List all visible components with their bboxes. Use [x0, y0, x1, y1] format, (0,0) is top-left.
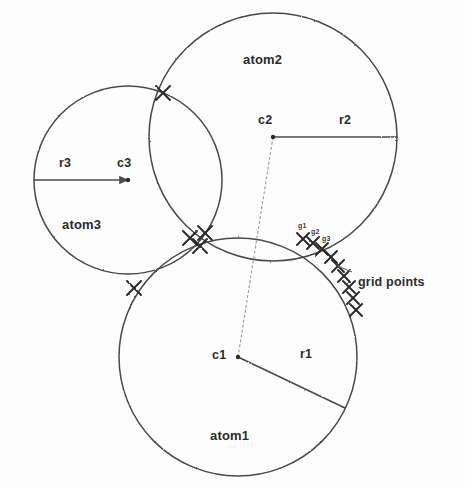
- atom3-label: atom3: [62, 217, 101, 232]
- atom1-radius-line: [238, 357, 345, 408]
- atom1-center-label: c1: [212, 348, 226, 362]
- atom2-center-dot: [271, 135, 275, 139]
- atom2-center-label: c2: [258, 113, 272, 127]
- grid-point-index-2: g2: [311, 228, 320, 235]
- triple-junction-left: [183, 231, 197, 245]
- triple-junction-mid: [198, 226, 212, 240]
- c2-to-c1-line: [238, 137, 273, 357]
- grid-point-7: [343, 281, 355, 293]
- grid-point-9: [350, 304, 362, 316]
- atom1-center-dot: [236, 355, 240, 359]
- grid-point-8: [347, 292, 359, 304]
- atom3-center-label: c3: [117, 156, 131, 170]
- atom3-center-dot: [126, 178, 130, 182]
- atom2-radius-label: r2: [339, 113, 351, 127]
- atom2-atom3-upper: [156, 86, 170, 100]
- atom2-label: atom2: [243, 52, 282, 67]
- grid-point-1: [297, 233, 309, 245]
- atom3-atom1-lower: [127, 281, 141, 295]
- diagram-canvas: [0, 0, 465, 487]
- grid-points-label: grid points: [358, 275, 425, 289]
- center-connector-line: [238, 137, 273, 357]
- atom1-label: atom1: [210, 428, 249, 443]
- grid-point-index-1: g1: [298, 222, 307, 229]
- grid-point-index-3: g3: [322, 235, 331, 242]
- atom3-radius-label: r3: [59, 156, 71, 170]
- intersection-and-grid-marks: [127, 86, 362, 316]
- atom1-radius-label: r1: [300, 347, 312, 361]
- grid-point-4: [325, 251, 337, 263]
- atom-grid-point-diagram: atom1 c1 r1 atom2 c2 r2 atom3 c3 r3 grid…: [0, 0, 465, 487]
